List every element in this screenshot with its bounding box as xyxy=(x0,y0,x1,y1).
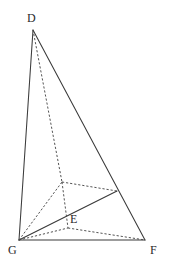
geometry-figure: D G F E xyxy=(0,0,170,276)
edge-M-N xyxy=(62,182,117,191)
edge-E-F xyxy=(68,228,145,240)
vertex-label-F: F xyxy=(150,244,157,256)
vertex-label-E: E xyxy=(70,213,77,225)
solid-edge-group xyxy=(19,30,145,240)
edge-M-E xyxy=(62,182,68,228)
edge-D-F xyxy=(33,30,145,240)
vertex-label-D: D xyxy=(27,12,36,24)
figure-canvas xyxy=(0,0,170,276)
edge-D-G xyxy=(19,30,33,240)
edge-D-M xyxy=(33,30,62,182)
edge-G-N xyxy=(19,191,117,240)
vertex-label-G: G xyxy=(8,244,17,256)
